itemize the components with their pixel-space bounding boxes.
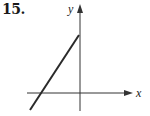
graph: x y: [0, 0, 150, 116]
x-axis-label: x: [135, 86, 142, 100]
y-axis-arrow-icon: [77, 4, 83, 13]
y-axis-label: y: [67, 2, 74, 16]
graph-line: [30, 35, 79, 110]
x-axis-arrow-icon: [124, 90, 133, 96]
